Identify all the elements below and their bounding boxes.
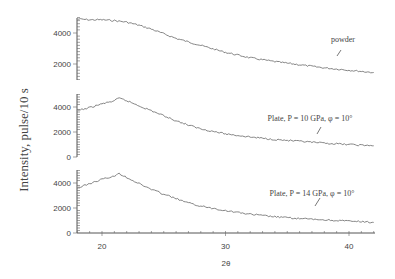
annotation-plate-14gpa: Plate, P = 14 GPa, φ = 10° — [270, 189, 355, 198]
x-tick-label: 20 — [98, 242, 107, 251]
x-tick-label: 40 — [345, 242, 354, 251]
curve-powder — [77, 19, 373, 73]
arrow-plate-10gpa — [317, 127, 321, 134]
y-tick-label: 2000 — [53, 60, 71, 69]
y-tick-label: 4000 — [53, 29, 71, 38]
curve-plate-14gpa — [77, 173, 373, 223]
annotation-plate-10gpa: Plate, P = 10 GPa, φ = 10° — [268, 114, 353, 123]
y-tick-label: 2000 — [53, 128, 71, 137]
arrow-powder — [337, 50, 341, 56]
y-tick-label: 4000 — [53, 103, 71, 112]
x-axis: 203040 — [77, 231, 375, 251]
arrow-plate-14gpa — [315, 198, 320, 206]
y-tick-label: 4000 — [53, 179, 71, 188]
annotation-powder: powder — [331, 35, 355, 44]
xrd-stacked-chart: 20004000020004000020004000 203040 Intens… — [0, 0, 395, 279]
y-tick-label: 0 — [67, 229, 72, 238]
y-axis-label: Intensity, pulse/10 s — [16, 88, 31, 192]
panel-plate-14gpa: 020004000 — [53, 170, 373, 238]
panel-plate-10gpa: 020004000 — [53, 94, 373, 162]
x-axis-label: 2θ — [222, 259, 231, 268]
y-tick-label: 0 — [67, 153, 72, 162]
x-tick-label: 30 — [221, 242, 230, 251]
y-tick-label: 2000 — [53, 204, 71, 213]
panel-powder: 20004000 — [53, 18, 373, 81]
